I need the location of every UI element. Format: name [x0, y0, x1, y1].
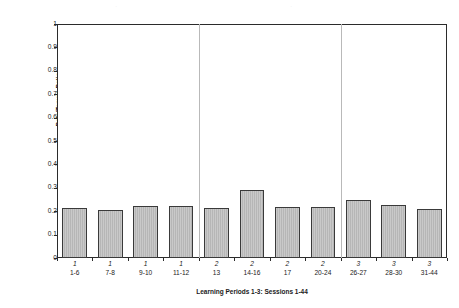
- x-period-label: 1: [92, 259, 127, 268]
- x-tick-group: 220-24: [305, 259, 340, 278]
- x-period-label: 3: [412, 259, 447, 268]
- x-session-label: 28-30: [376, 268, 411, 278]
- x-tick-group: 19-10: [128, 259, 163, 278]
- x-session-label: 9-10: [128, 268, 163, 278]
- x-tick-mark: [447, 258, 448, 261]
- y-axis-ticks: 10.90.80.70.60.50.40.30.20.10: [26, 0, 57, 308]
- group-separator: [199, 24, 200, 258]
- x-period-label: 1: [128, 259, 163, 268]
- x-period-label: 2: [305, 259, 340, 268]
- x-tick-group: 328-30: [376, 259, 411, 278]
- x-period-label: 2: [234, 259, 269, 268]
- x-tick-group: 331-44: [412, 259, 447, 278]
- bar: [381, 205, 406, 258]
- y-tick-label: 0.7: [29, 91, 57, 97]
- x-period-label: 2: [199, 259, 234, 268]
- bar: [204, 208, 229, 258]
- x-tick-group: 11-6: [57, 259, 92, 278]
- x-session-label: 17: [270, 268, 305, 278]
- x-period-label: 3: [341, 259, 376, 268]
- x-tick-group: 214-16: [234, 259, 269, 278]
- scan-artifact: ·: [290, 3, 292, 10]
- x-session-label: 1-6: [57, 268, 92, 278]
- x-session-label: 13: [199, 268, 234, 278]
- bars-layer: [57, 24, 447, 258]
- y-tick-label: 0.9: [29, 44, 57, 50]
- x-session-label: 26-27: [341, 268, 376, 278]
- x-period-label: 1: [57, 259, 92, 268]
- y-tick-label: 0.4: [29, 161, 57, 167]
- x-period-label: 1: [163, 259, 198, 268]
- y-tick-label: 0.2: [29, 208, 57, 214]
- x-session-label: 31-44: [412, 268, 447, 278]
- bar: [98, 210, 123, 258]
- x-session-label: 11-12: [163, 268, 198, 278]
- bar: [169, 206, 194, 258]
- x-tick-group: 217: [270, 259, 305, 278]
- scan-artifact: ·: [115, 3, 117, 10]
- y-tick-label: 0.6: [29, 114, 57, 120]
- bar-chart: · · Rate/Tempo Ratio 10.90.80.70.60.50.4…: [0, 0, 459, 308]
- y-tick-label: 0: [29, 255, 57, 261]
- x-tick-group: 326-27: [341, 259, 376, 278]
- bar: [275, 207, 300, 258]
- x-axis-labels: 11-617-819-10111-12213214-16217220-24326…: [57, 259, 447, 289]
- bar: [133, 206, 158, 258]
- x-period-label: 3: [376, 259, 411, 268]
- y-tick-label: 0.8: [29, 67, 57, 73]
- bar: [62, 208, 87, 258]
- x-tick-group: 213: [199, 259, 234, 278]
- x-session-label: 20-24: [305, 268, 340, 278]
- x-tick-group: 17-8: [92, 259, 127, 278]
- bar: [346, 200, 371, 258]
- x-tick-group: 111-12: [163, 259, 198, 278]
- x-period-label: 2: [270, 259, 305, 268]
- x-session-label: 14-16: [234, 268, 269, 278]
- group-separator: [341, 24, 342, 258]
- x-axis-title: Learning Periods 1-3: Sessions 1-44: [57, 288, 447, 295]
- y-tick-label: 0.1: [29, 231, 57, 237]
- x-session-label: 7-8: [92, 268, 127, 278]
- y-tick-label: 0.3: [29, 184, 57, 190]
- bar: [240, 190, 265, 258]
- bar: [417, 209, 442, 258]
- y-tick-label: 0.5: [29, 138, 57, 144]
- y-tick-label: 1: [29, 21, 57, 27]
- bar: [311, 207, 336, 258]
